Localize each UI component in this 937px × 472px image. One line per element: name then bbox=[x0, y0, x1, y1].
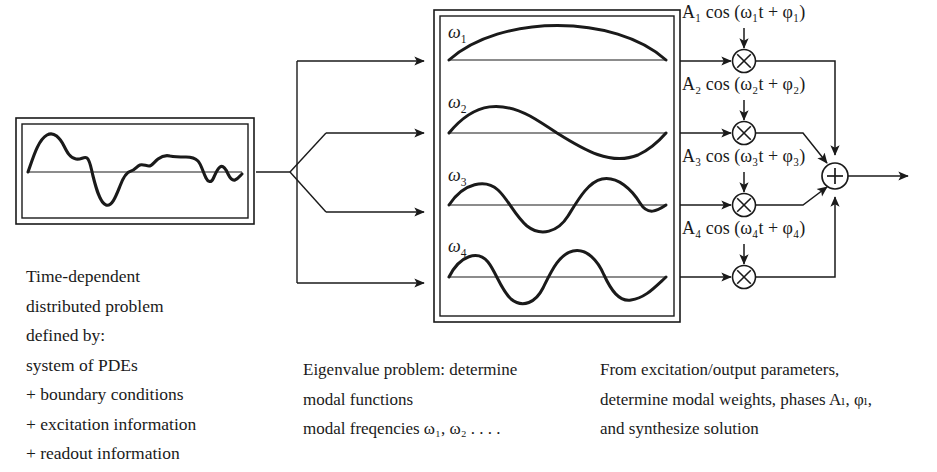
fanout-branch-c bbox=[290, 172, 326, 212]
middle-caption: Eigenvalue problem: determine modal func… bbox=[303, 355, 517, 444]
right-caption-line: determine modal weights, phases Aₗ, φₗ, bbox=[600, 385, 872, 415]
mode-1-label: ω1 bbox=[448, 22, 466, 45]
right-caption-line: and synthesize solution bbox=[600, 414, 872, 444]
left-description-line: + boundary conditions bbox=[26, 380, 196, 410]
fanout-branch-b bbox=[290, 133, 326, 172]
multiplier-4-drive-label: A₄ cos (ω₄t + φ₄) bbox=[682, 218, 805, 239]
modal-box-inner bbox=[440, 16, 674, 316]
route-3 bbox=[756, 187, 828, 205]
modal-decomposition-diagram: ω1 ω2 ω3 ω4 A₁ cos (ω₁t + φ₁) A₂ cos (ω₂… bbox=[0, 0, 937, 472]
mode-2-label: ω2 bbox=[448, 92, 466, 115]
middle-caption-line: modal freqencies ω₁, ω₂ . . . . bbox=[303, 414, 517, 444]
input-box-inner bbox=[22, 124, 248, 218]
middle-caption-line: Eigenvalue problem: determine bbox=[303, 355, 517, 385]
left-description-line: distributed problem bbox=[26, 292, 196, 322]
modal-box-outer bbox=[434, 10, 680, 322]
mode-3-label: ω3 bbox=[448, 165, 466, 188]
left-description-line: system of PDEs bbox=[26, 351, 196, 381]
left-description-line: defined by: bbox=[26, 321, 196, 351]
left-description-line: Time-dependent bbox=[26, 262, 196, 292]
left-description: Time-dependent distributed problem defin… bbox=[26, 262, 196, 469]
left-description-line: + readout information bbox=[26, 439, 196, 469]
multiplier-1-drive-label: A₁ cos (ω₁t + φ₁) bbox=[682, 2, 805, 23]
right-caption: From excitation/output parameters, deter… bbox=[600, 355, 872, 444]
multiplier-3-drive-label: A₃ cos (ω₃t + φ₃) bbox=[682, 146, 805, 167]
middle-caption-line: modal functions bbox=[303, 385, 517, 415]
mode-4-label: ω4 bbox=[448, 236, 466, 259]
left-description-line: + excitation information bbox=[26, 410, 196, 440]
mode-1-curve bbox=[449, 26, 666, 61]
input-waveform bbox=[28, 134, 242, 205]
multiplier-2-drive-label: A₂ cos (ω₂t + φ₂) bbox=[682, 74, 805, 95]
right-caption-line: From excitation/output parameters, bbox=[600, 355, 872, 385]
